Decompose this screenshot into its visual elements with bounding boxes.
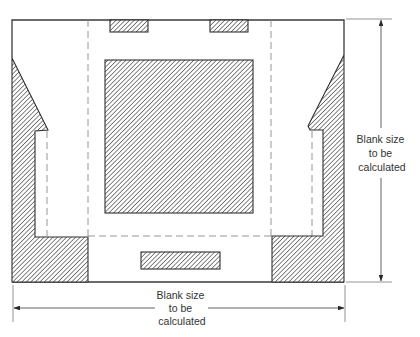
scrap-center-square [105,60,253,213]
dimension-label-vertical-line-2: to be [369,147,393,159]
scrap-top-tab-right [210,20,248,32]
dimension-label-horizontal: Blank size to be calculated [157,289,208,327]
dimension-label-vertical-line-1: Blank size [357,133,405,145]
scrap-top-tab-left [110,20,148,32]
dimension-label-vertical: Blank size to be calculated [357,133,408,173]
dimension-label-vertical-line-3: calculated [358,161,405,173]
dimension-label-horizontal-line-1: Blank size [157,289,205,301]
scrap-bottom-tab [141,252,220,269]
dimension-label-horizontal-line-3: calculated [158,315,205,327]
scrap-left [12,58,88,282]
scrap-right [272,55,344,282]
blank-layout-drawing: Blank size to be calculated Blank size t… [0,0,420,337]
dimension-label-horizontal-line-2: to be [169,302,193,314]
